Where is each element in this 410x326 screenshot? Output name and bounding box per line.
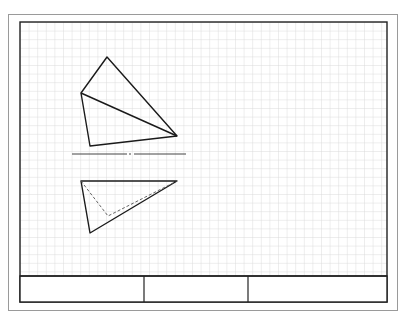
drawing-canvas xyxy=(0,0,410,326)
grid-area xyxy=(20,22,387,276)
title-block xyxy=(20,276,387,302)
